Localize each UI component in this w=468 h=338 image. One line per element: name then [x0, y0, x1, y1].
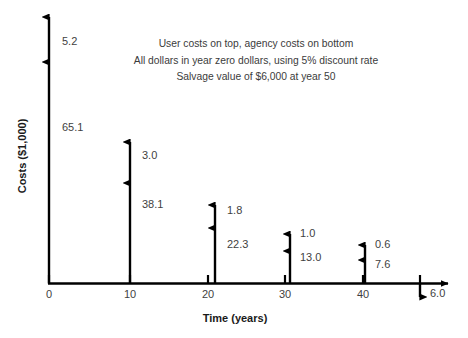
annotation-line-1: User costs on top, agency costs on botto… — [118, 36, 394, 53]
value-label-year22-user: 1.8 — [227, 204, 242, 216]
cash-flow-chart: User costs on top, agency costs on botto… — [0, 0, 468, 338]
chart-annotation-block: User costs on top, agency costs on botto… — [118, 36, 394, 86]
value-label-year33-agency: 13.0 — [300, 251, 321, 263]
value-label-year43-user: 0.6 — [375, 238, 390, 250]
value-label-year33-user: 1.0 — [300, 227, 315, 239]
annotation-line-3: Salvage value of $6,000 at year 50 — [118, 69, 394, 86]
x-tick-label-10: 10 — [115, 288, 145, 300]
x-tick-label-40: 40 — [348, 288, 378, 300]
x-tick-label-30: 30 — [270, 288, 300, 300]
x-tick-label-20: 20 — [193, 288, 223, 300]
annotation-line-2: All dollars in year zero dollars, using … — [118, 53, 394, 70]
y-axis-title: Costs ($1,000) — [16, 96, 28, 216]
value-label-year22-agency: 22.3 — [227, 238, 248, 250]
x-axis-title: Time (years) — [80, 312, 390, 324]
x-tick-label-0: 0 — [34, 288, 64, 300]
value-label-year0-agency: 65.1 — [62, 121, 83, 133]
value-label-year43-agency: 7.6 — [375, 258, 390, 270]
value-label-year10-user: 3.0 — [142, 149, 157, 161]
value-label-salvage: 6.0 — [430, 287, 445, 299]
value-label-year10-agency: 38.1 — [142, 198, 163, 210]
value-label-year0-user: 5.2 — [62, 35, 77, 47]
